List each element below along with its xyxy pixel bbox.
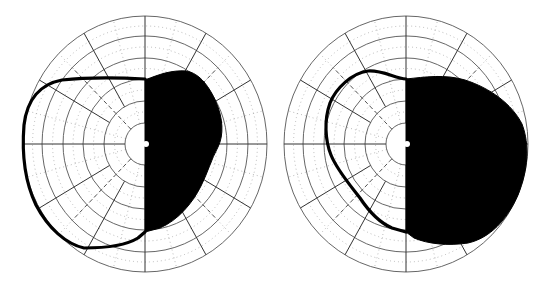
fixation-point <box>143 141 149 147</box>
fixation-point <box>404 141 410 147</box>
minor-meridian <box>113 164 139 267</box>
minor-meridian <box>113 20 139 123</box>
meridian <box>300 166 370 208</box>
left-visual-field-chart <box>23 16 267 272</box>
scotoma-fill <box>145 71 222 232</box>
minor-meridian <box>288 149 387 177</box>
scotoma-fill <box>406 76 527 244</box>
minor-meridian <box>27 149 126 177</box>
meridian <box>84 33 125 107</box>
right-visual-field-chart <box>284 16 528 272</box>
minor-meridian <box>27 111 126 139</box>
meridian <box>345 181 386 255</box>
minor-meridian <box>288 111 387 139</box>
perimetry-figure <box>0 0 549 287</box>
isopter-line <box>23 78 145 248</box>
minor-meridian <box>374 164 400 267</box>
meridian <box>39 166 109 208</box>
